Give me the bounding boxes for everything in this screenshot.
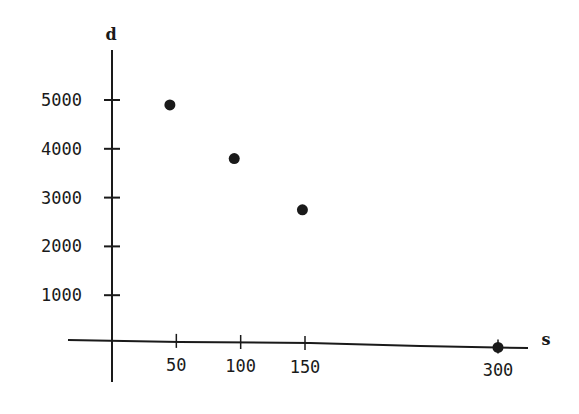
- data-point: [229, 153, 240, 164]
- data-points: [164, 99, 503, 353]
- data-point: [297, 204, 308, 215]
- y-tick-label: 5000: [41, 90, 82, 110]
- scatter-chart: 10002000300040005000 50100150300 d s: [0, 0, 579, 414]
- x-ticks: 50100150300: [166, 334, 513, 381]
- x-axis: [68, 340, 528, 348]
- x-tick-label: 100: [225, 356, 256, 376]
- y-tick-label: 4000: [41, 139, 82, 159]
- y-tick-label: 3000: [41, 188, 82, 208]
- x-tick-label: 150: [290, 357, 321, 377]
- y-tick-label: 1000: [41, 285, 82, 305]
- axes: [68, 50, 528, 382]
- data-point: [164, 99, 175, 110]
- x-axis-label: s: [541, 330, 550, 349]
- y-ticks: 10002000300040005000: [41, 90, 120, 305]
- x-tick-label: 50: [166, 355, 186, 375]
- y-axis-label: d: [105, 25, 116, 44]
- x-tick-label: 300: [483, 360, 514, 380]
- y-tick-label: 2000: [41, 236, 82, 256]
- data-point: [493, 342, 504, 353]
